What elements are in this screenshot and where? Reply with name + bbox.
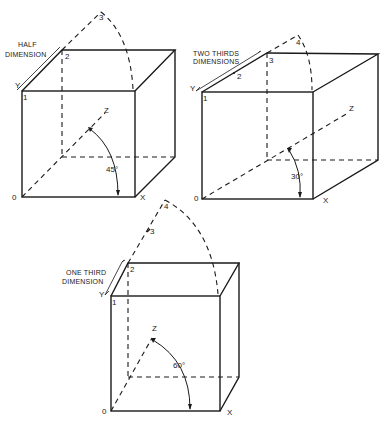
y-label: Y [15,81,21,90]
cube-half-dimension: HALF DIMENSION Y 1 2 3 Z 0 X 45° [5,12,175,202]
origin-label: 0 [12,193,17,202]
front-face [202,92,313,199]
arrowhead-icon [298,192,302,198]
caption-line-2: DIMENSIONS [193,58,239,65]
caption-line-2: DIMENSION [62,278,103,285]
caption-line-1: TWO THIRDS [193,50,239,57]
angle-label: 60° [173,361,185,370]
point-1-label: 1 [203,94,208,103]
cube-one-third-dimension: ONE THIRD DIMENSION Y 1 2 3 4 Z 0 X 60° [62,200,239,417]
z-axis-line [22,113,105,197]
arrowhead-icon [116,190,120,196]
arrowhead-icon [287,148,292,153]
angle-label: 45° [106,165,118,174]
point-2-label: 2 [237,72,242,81]
oblique-projection-diagram: HALF DIMENSION Y 1 2 3 Z 0 X 45° TWO THI… [0,0,385,422]
right-face-edges [220,263,239,411]
origin-label: 0 [102,407,107,416]
midpoint-marker [233,72,235,74]
point-3-label: 3 [150,227,155,236]
full-depth-extension [267,35,298,53]
arrowhead-icon [188,404,192,410]
point-2-label: 2 [130,265,135,274]
right-face-edges [313,54,378,199]
point-1-label: 1 [112,298,117,307]
angle-arc [90,129,118,195]
cube-two-thirds-dimensions: TWO THIRDS DIMENSIONS Y 1 2 3 4 Z 0 X 30… [190,35,378,205]
x-label: X [227,408,233,417]
full-depth-extension [128,200,165,263]
point-1-label: 1 [23,93,28,102]
y-label: Y [99,290,105,299]
x-label: X [140,193,146,202]
arrowhead-icon [151,338,156,343]
z-label: Z [104,106,109,115]
point-2-label: 2 [65,52,70,61]
z-axis-line [111,338,152,411]
front-face [22,91,135,197]
point-3-label: 3 [99,13,104,22]
x-label: X [323,196,329,205]
y-label: Y [190,84,196,93]
angle-arc [153,340,190,409]
point-3-label: 3 [269,56,274,65]
z-label: Z [349,104,354,113]
full-depth-extension [62,12,101,50]
caption-line-2: DIMENSION [5,51,46,58]
front-face [111,296,220,411]
caption-line-1: HALF [18,41,37,48]
swing-arc [165,200,218,294]
dimension-bracket [196,51,261,91]
point-4-label: 4 [296,38,301,47]
z-axis-line [202,113,348,199]
z-label: Z [152,324,157,333]
caption-line-1: ONE THIRD [66,269,106,276]
right-face-edges [135,50,175,197]
origin-label: 0 [194,194,199,203]
point-4-label: 4 [164,202,169,211]
angle-label: 30° [291,172,303,181]
